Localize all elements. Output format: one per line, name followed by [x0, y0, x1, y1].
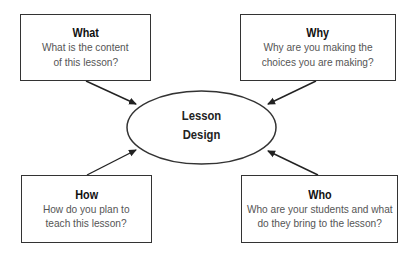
- arrow-how-to-center: [87, 150, 136, 175]
- what-text-line1: What is the content: [42, 40, 129, 55]
- what-title: What: [72, 26, 98, 40]
- center-label-line2: Design: [155, 126, 248, 145]
- who-text-line1: Who are your students and what: [247, 202, 393, 217]
- center-label: Lesson Design: [155, 107, 248, 145]
- why-text-line2: choices you are making?: [262, 55, 374, 70]
- what-box: What What is the content of this lesson?: [20, 14, 151, 81]
- why-text-line1: Why are you making the: [263, 40, 372, 55]
- how-text-line2: teach this lesson?: [46, 216, 127, 231]
- how-box: How How do you plan to teach this lesson…: [21, 175, 152, 243]
- who-text-line2: do they bring to the lesson?: [257, 216, 381, 231]
- center-label-line1: Lesson: [155, 107, 248, 126]
- what-text-line2: of this lesson?: [53, 55, 118, 70]
- arrow-what-to-center: [86, 81, 136, 104]
- how-title: How: [75, 188, 98, 202]
- who-box: Who Who are your students and what do th…: [241, 175, 398, 243]
- arrow-why-to-center: [268, 81, 316, 104]
- how-text-line1: How do you plan to: [43, 202, 130, 217]
- who-title: Who: [308, 188, 331, 202]
- arrow-who-to-center: [268, 151, 318, 175]
- why-box: Why Why are you making the choices you a…: [240, 14, 396, 81]
- why-title: Why: [307, 26, 330, 40]
